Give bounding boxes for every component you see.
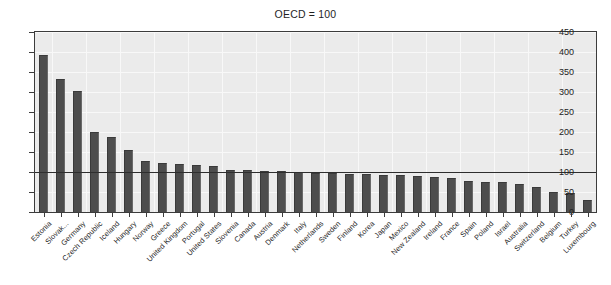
bar <box>345 174 354 212</box>
bar <box>362 174 371 212</box>
x-tick-mark <box>537 213 538 217</box>
bar <box>328 173 337 212</box>
x-tick-mark <box>44 213 45 217</box>
gridline-vertical <box>222 32 223 212</box>
x-tick-mark <box>554 213 555 217</box>
y-tick-label: 250 <box>559 107 574 117</box>
x-tick-mark <box>231 213 232 217</box>
bar <box>311 173 320 212</box>
bar-chart: OECD = 100 050100150200250300350400450Es… <box>0 0 611 285</box>
y-tick-mark <box>29 132 34 133</box>
x-tick-mark <box>350 213 351 217</box>
gridline-vertical <box>528 32 529 212</box>
bar <box>549 192 558 212</box>
gridline-vertical <box>256 32 257 212</box>
bar <box>583 200 592 212</box>
bar <box>481 182 490 212</box>
y-tick-label: 100 <box>559 167 574 177</box>
reference-line-oecd-100 <box>35 172 596 173</box>
x-tick-mark <box>435 213 436 217</box>
y-tick-mark <box>29 172 34 173</box>
bar <box>413 176 422 212</box>
y-tick-label: 200 <box>559 127 574 137</box>
gridline-vertical <box>324 32 325 212</box>
bar <box>39 55 48 212</box>
bar <box>498 182 507 212</box>
y-tick-label: 450 <box>559 27 574 37</box>
x-tick-mark <box>571 213 572 217</box>
bar <box>226 170 235 212</box>
x-tick-mark <box>95 213 96 217</box>
gridline-vertical <box>426 32 427 212</box>
x-tick-mark <box>163 213 164 217</box>
x-tick-mark <box>112 213 113 217</box>
bar <box>294 172 303 212</box>
x-tick-mark <box>588 213 589 217</box>
gridline-vertical <box>494 32 495 212</box>
bar <box>141 161 150 212</box>
y-tick-mark <box>29 52 34 53</box>
x-tick-mark <box>384 213 385 217</box>
bar <box>430 177 439 212</box>
y-tick-mark <box>29 212 34 213</box>
x-tick-mark <box>520 213 521 217</box>
bar <box>73 91 82 212</box>
gridline-vertical <box>460 32 461 212</box>
x-tick-mark <box>265 213 266 217</box>
x-tick-mark <box>129 213 130 217</box>
bar <box>277 171 286 212</box>
x-tick-mark <box>197 213 198 217</box>
x-tick-mark <box>61 213 62 217</box>
bar <box>447 178 456 212</box>
bar <box>158 163 167 212</box>
bar <box>124 150 133 212</box>
x-tick-mark <box>486 213 487 217</box>
y-tick-label: 350 <box>559 67 574 77</box>
y-tick-mark <box>29 72 34 73</box>
y-tick-label: 300 <box>559 87 574 97</box>
x-tick-label: Korea <box>355 219 376 240</box>
gridline-vertical <box>290 32 291 212</box>
x-tick-mark <box>367 213 368 217</box>
gridline-vertical <box>358 32 359 212</box>
bar <box>107 137 116 212</box>
chart-title: OECD = 100 <box>0 8 611 20</box>
x-tick-mark <box>146 213 147 217</box>
y-tick-mark <box>29 32 34 33</box>
bar <box>260 171 269 212</box>
bar <box>515 184 524 212</box>
gridline-vertical <box>86 32 87 212</box>
y-axis <box>0 0 34 285</box>
gridline-vertical <box>562 32 563 212</box>
bar <box>464 181 473 212</box>
y-tick-mark <box>29 152 34 153</box>
gridline-vertical <box>52 32 53 212</box>
bar <box>396 175 405 212</box>
x-tick-mark <box>214 213 215 217</box>
bar <box>56 79 65 212</box>
y-tick-label: 50 <box>564 187 574 197</box>
gridline-vertical <box>154 32 155 212</box>
y-tick-label: 150 <box>559 147 574 157</box>
bar <box>379 175 388 212</box>
bar <box>532 187 541 212</box>
gridline-vertical <box>120 32 121 212</box>
y-tick-mark <box>29 92 34 93</box>
x-tick-mark <box>418 213 419 217</box>
x-tick-mark <box>180 213 181 217</box>
x-tick-mark <box>282 213 283 217</box>
x-tick-mark <box>78 213 79 217</box>
y-tick-mark <box>29 112 34 113</box>
x-tick-mark <box>333 213 334 217</box>
x-tick-mark <box>299 213 300 217</box>
x-tick-mark <box>452 213 453 217</box>
gridline-vertical <box>392 32 393 212</box>
gridline-vertical <box>188 32 189 212</box>
plot-area <box>34 31 597 213</box>
x-tick-mark <box>503 213 504 217</box>
x-tick-mark <box>469 213 470 217</box>
y-tick-mark <box>29 192 34 193</box>
x-tick-mark <box>401 213 402 217</box>
bar <box>243 170 252 212</box>
x-tick-mark <box>316 213 317 217</box>
